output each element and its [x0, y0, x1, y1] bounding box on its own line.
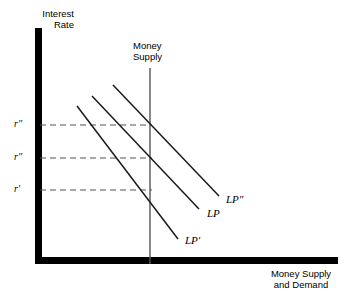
lp-curve [92, 96, 199, 209]
y-axis-title: Interest Rate [12, 8, 74, 30]
axes-group [36, 28, 338, 264]
tick-label-r-prime: r′ [14, 183, 20, 194]
money-supply-label: Money Supply [133, 40, 162, 62]
plot-canvas [0, 0, 350, 301]
tick-label-r-double-prime: r″ [14, 118, 22, 129]
curve-label-lp: LP [207, 207, 220, 219]
lp-double-prime-curve [113, 85, 219, 196]
curve-label-lp-double-prime: LP″ [226, 193, 243, 205]
liquidity-preference-figure: Interest Rate Money Supply Money Supply … [0, 0, 350, 301]
lp-prime-curve [77, 106, 178, 239]
tick-label-r-star: r″ [14, 151, 22, 162]
lp-curves-group [77, 85, 219, 239]
x-axis-title: Money Supply and Demand [258, 268, 344, 290]
dashed-lines-group [40, 125, 152, 190]
curve-label-lp-prime: LP′ [185, 234, 200, 246]
